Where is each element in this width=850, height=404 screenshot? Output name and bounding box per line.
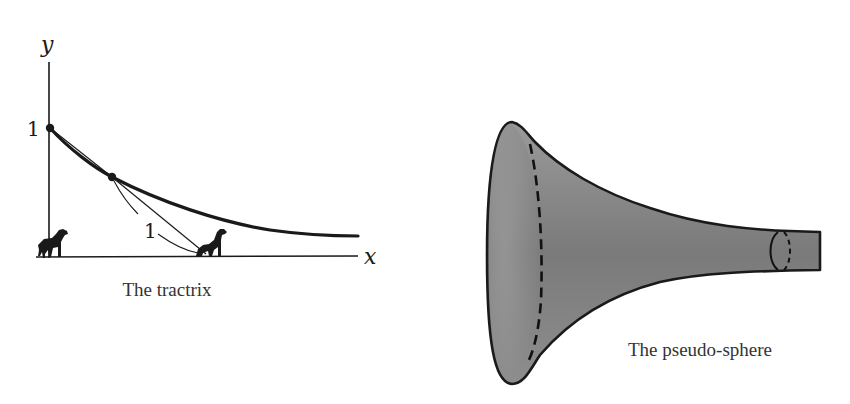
point-on-curve	[108, 173, 116, 181]
leash-arc-lower	[158, 234, 198, 253]
dog-icon-x-axis	[196, 229, 227, 256]
dog-icon-origin	[38, 229, 68, 258]
tangent-segment	[112, 177, 206, 254]
figure-stage: y x 1 1 The tractrix	[0, 0, 850, 404]
pseudo-sphere-caption: The pseudo-sphere	[628, 339, 772, 360]
x-axis	[36, 256, 358, 257]
y-intercept-label: 1	[27, 117, 40, 141]
tractrix-figure: y x 1 1 The tractrix	[27, 32, 377, 300]
leash-length-label: 1	[144, 219, 157, 243]
tractrix-caption: The tractrix	[122, 279, 212, 300]
point-y-intercept	[46, 124, 54, 132]
figure-canvas: y x 1 1 The tractrix	[0, 0, 850, 404]
x-axis-label: x	[364, 244, 377, 269]
chord-segment	[50, 128, 112, 177]
tractrix-curve	[50, 128, 358, 236]
leash-arc-upper	[114, 181, 138, 214]
pseudo-sphere-figure: The pseudo-sphere	[487, 122, 820, 384]
y-axis-label: y	[40, 32, 54, 57]
